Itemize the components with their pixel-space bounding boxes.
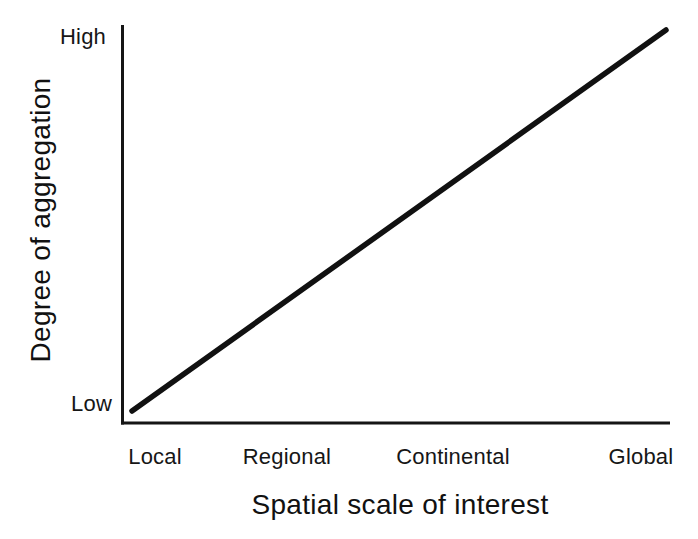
- trend-line: [132, 30, 666, 411]
- y-axis-title: Degree of aggregation: [25, 78, 56, 363]
- x-tick-regional: Regional: [243, 444, 331, 469]
- x-tick-local: Local: [128, 444, 182, 469]
- chart-canvas: High Low Local Regional Continental Glob…: [0, 0, 698, 539]
- aggregation-scale-chart: High Low Local Regional Continental Glob…: [0, 0, 698, 539]
- x-tick-continental: Continental: [396, 444, 510, 469]
- y-tick-low: Low: [71, 391, 112, 416]
- x-tick-global: Global: [609, 444, 674, 469]
- y-tick-high: High: [60, 24, 106, 49]
- x-axis-title: Spatial scale of interest: [252, 489, 549, 520]
